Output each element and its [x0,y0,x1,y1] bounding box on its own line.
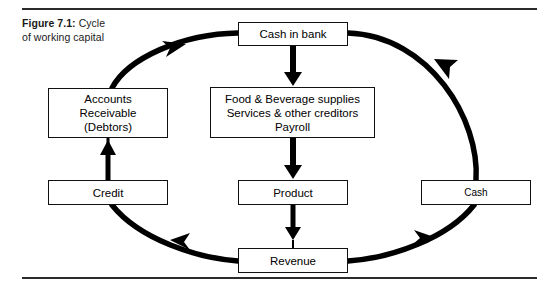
arrow-product-to-revenue [285,205,301,248]
node-revenue[interactable]: Revenue [238,248,348,273]
node-accounts-receivable-line-3: (Debtors) [84,120,132,134]
node-payables-line-2: Services & other creditors [227,106,359,120]
node-payables[interactable]: Food & Beverage supplies Services & othe… [210,87,375,138]
node-revenue-label: Revenue [270,254,316,268]
figure-container: Figure 7.1: Cycle of working capital [0,0,559,291]
node-payables-line-3: Payroll [275,120,310,134]
node-cash-label: Cash [464,186,487,200]
arrow-payables-to-product [284,138,302,179]
node-payables-line-1: Food & Beverage supplies [225,92,360,106]
node-cash-in-bank-label: Cash in bank [259,27,326,41]
node-credit[interactable]: Credit [48,180,168,205]
arrow-revenue-to-cash [348,205,474,261]
arrow-credit-to-accounts-receivable [100,138,116,180]
arrow-cash-in-bank-to-payables [284,46,302,86]
node-product-label: Product [273,186,313,200]
node-accounts-receivable-line-1: Accounts [84,92,131,106]
node-cash[interactable]: Cash [421,180,531,205]
node-cash-in-bank[interactable]: Cash in bank [238,22,348,46]
node-accounts-receivable-line-2: Receivable [80,106,137,120]
node-product[interactable]: Product [238,180,348,205]
arrow-accounts-receivable-to-cash-in-bank [112,33,238,88]
arrow-revenue-to-credit [112,205,238,261]
node-accounts-receivable[interactable]: Accounts Receivable (Debtors) [48,88,168,138]
node-credit-label: Credit [93,186,124,200]
